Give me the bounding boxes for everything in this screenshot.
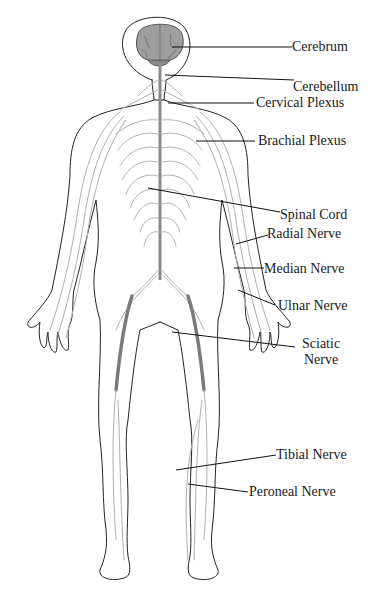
label-ulnar-nerve: Ulnar Nerve xyxy=(278,299,348,313)
label-cerebrum: Cerebrum xyxy=(292,40,348,54)
label-sciatic-nerve: Sciatic Nerve xyxy=(302,336,340,368)
label-brachial-plexus: Brachial Plexus xyxy=(258,134,346,148)
torso-outline-right xyxy=(160,100,290,580)
sciatic-nerve-left xyxy=(116,296,132,390)
label-tibial-nerve: Tibial Nerve xyxy=(276,448,347,462)
label-peroneal-nerve: Peroneal Nerve xyxy=(249,485,336,499)
nervous-system-diagram: Cerebrum Cerebellum Cervical Plexus Brac… xyxy=(0,0,375,611)
sciatic-nerve-right xyxy=(188,296,204,390)
label-cervical-plexus: Cervical Plexus xyxy=(256,96,344,110)
label-radial-nerve: Radial Nerve xyxy=(267,227,341,241)
label-cerebellum: Cerebellum xyxy=(293,80,358,94)
leg-nerves xyxy=(113,270,207,560)
label-sciatic-line2: Nerve xyxy=(304,352,338,367)
label-sciatic-line1: Sciatic xyxy=(302,336,340,351)
label-median-nerve: Median Nerve xyxy=(264,262,344,276)
label-spinal-cord: Spinal Cord xyxy=(280,208,347,222)
